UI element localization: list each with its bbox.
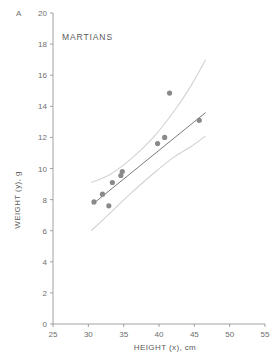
x-tick-label: 55 — [261, 330, 270, 339]
y-tick-label: 8 — [43, 196, 48, 205]
y-tick-label: 14 — [38, 102, 47, 111]
panel-label: A — [16, 9, 22, 18]
y-tick-label: 4 — [43, 258, 48, 267]
x-tick-label: 25 — [49, 330, 58, 339]
confidence-band-upper — [91, 60, 205, 183]
data-point — [167, 90, 172, 95]
x-axis-label: HEIGHT (x), cm — [134, 343, 196, 352]
x-tick-label: 30 — [84, 330, 93, 339]
y-axis: 02468101214161820 — [38, 9, 53, 329]
confidence-band-lower — [91, 136, 205, 231]
data-point — [120, 169, 125, 174]
x-tick-label: 50 — [225, 330, 234, 339]
data-point — [197, 118, 202, 123]
x-tick-label: 35 — [119, 330, 128, 339]
data-point — [162, 135, 167, 140]
y-tick-label: 16 — [38, 71, 47, 80]
y-tick-label: 10 — [38, 165, 47, 174]
y-tick-label: 12 — [38, 133, 47, 142]
x-tick-label: 45 — [190, 330, 199, 339]
data-point — [91, 199, 96, 204]
data-point — [110, 180, 115, 185]
y-tick-label: 2 — [43, 289, 48, 298]
scatter-plot: A MARTIANS 02468101214161820 25303540455… — [0, 0, 276, 355]
chart-root: A MARTIANS 02468101214161820 25303540455… — [0, 0, 276, 355]
data-point — [106, 203, 111, 208]
data-point — [100, 192, 105, 197]
y-tick-label: 18 — [38, 40, 47, 49]
y-tick-label: 0 — [43, 320, 48, 329]
x-tick-label: 40 — [155, 330, 164, 339]
data-point — [155, 141, 160, 146]
y-tick-label: 6 — [43, 227, 48, 236]
plot-title: MARTIANS — [62, 32, 113, 42]
data-points — [91, 90, 201, 208]
regression-line — [93, 113, 206, 205]
y-axis-label: WEIGHT (y), g — [13, 171, 22, 229]
x-axis: 25303540455055 — [49, 324, 270, 339]
y-tick-label: 20 — [38, 9, 47, 18]
